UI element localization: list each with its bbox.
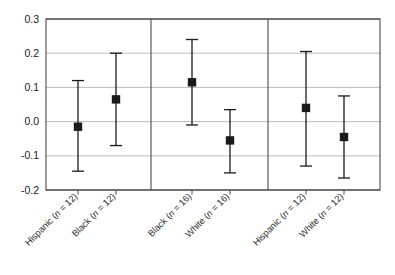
data-point-marker bbox=[340, 133, 348, 141]
data-point-marker bbox=[226, 136, 234, 144]
y-axis-label-0.1: 0.1 bbox=[24, 81, 39, 93]
y-axis-label-0.3: 0.3 bbox=[24, 13, 39, 25]
chart-canvas: 0.30.20.10.0-0.1-0.2 Hispanic (n = 12)Bl… bbox=[0, 0, 395, 275]
y-axis-label--0.2: -0.2 bbox=[21, 184, 39, 196]
y-axis-label-0.2: 0.2 bbox=[24, 47, 39, 59]
y-axis-label-0.0: 0.0 bbox=[24, 115, 39, 127]
error-bar-chart-figure: 0.30.20.10.0-0.1-0.2 Hispanic (n = 12)Bl… bbox=[0, 0, 395, 275]
chart-background bbox=[0, 0, 395, 275]
data-point-marker bbox=[302, 104, 310, 112]
data-point-marker bbox=[112, 95, 120, 103]
data-point-marker bbox=[74, 123, 82, 131]
data-point-marker bbox=[188, 78, 196, 86]
y-axis-label--0.1: -0.1 bbox=[21, 149, 39, 161]
